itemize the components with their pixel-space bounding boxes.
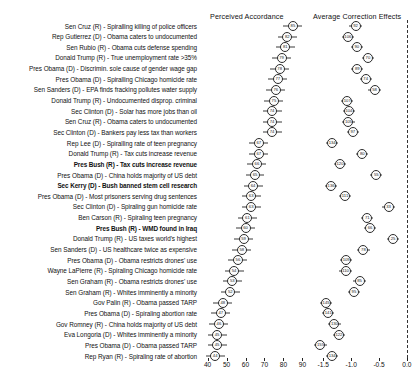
category-label: Sec Clinton (D) - Bankers pay less tax t…: [53, 128, 197, 137]
axis-tick-label: 60: [242, 361, 249, 368]
data-point-marker: 106: [343, 32, 353, 42]
category-label: Pres Obama (D) - Most prisoners serving …: [38, 192, 197, 201]
data-point-marker: 92: [351, 21, 361, 31]
x-axis-average-correction-effects: -1.5-1.0-0.50.0: [311, 358, 417, 382]
data-point-marker: 134: [327, 138, 337, 148]
category-label: Pres Obama (D) - Discrimin. sole cause o…: [29, 64, 197, 73]
category-label: Sen Rubio (R) - Obama cuts defense spend…: [66, 43, 197, 52]
category-label: Sen Cruz (R) - Spiralling killing of pol…: [65, 22, 197, 31]
axis-tick-label: 40: [204, 361, 211, 368]
category-label: Eva Longoria (D) - Whites imminently a m…: [64, 330, 197, 339]
data-point-marker: 63: [246, 202, 256, 212]
data-point-marker: 78: [358, 245, 368, 255]
data-point-marker: 74: [267, 127, 277, 137]
data-point-marker: 67: [254, 138, 264, 148]
data-point-marker: 90: [352, 42, 362, 52]
axis-tick-label: -1.0: [345, 361, 356, 368]
category-label: Sec Clinton (D) - Spiraling gun homicide…: [73, 202, 197, 211]
data-point-marker: 141: [323, 308, 333, 318]
data-point-marker: 107: [342, 96, 352, 106]
data-point-marker: 52: [225, 287, 235, 297]
category-label: Sen Sanders (D) - US healthcare twice as…: [50, 245, 197, 254]
data-point-marker: 79: [277, 53, 287, 63]
x-axis-perceived-accordance: 405060708090: [200, 358, 310, 382]
data-point-marker: 55: [371, 170, 381, 180]
data-point-marker: 56: [233, 255, 243, 265]
data-point-marker: 75: [269, 96, 279, 106]
category-label: Gov Palin (R) - Obama passed TARP: [93, 298, 197, 307]
data-point-marker: 59: [239, 234, 249, 244]
category-label: Sec Kerry (D) - Bush banned stem cell re…: [57, 181, 197, 190]
data-point-marker: 97: [348, 127, 358, 137]
axis-tick-label: 80: [280, 361, 287, 368]
category-label: Pres Bush (R) - Tax cuts increase revenu…: [74, 160, 197, 169]
category-label: Sen Graham (R) - Whites imminently a min…: [65, 288, 197, 297]
data-point-marker: 80: [357, 149, 367, 159]
data-point-marker: 47: [216, 308, 226, 318]
data-point-marker: 110: [341, 266, 351, 276]
category-label: Rep Ryan (R) - Spiraling rate of abortio…: [85, 352, 197, 361]
data-point-marker: 78: [275, 64, 285, 74]
category-label: Ben Carson (R) - Spiraling teen pregnanc…: [78, 213, 197, 222]
data-point-marker: 77: [273, 74, 283, 84]
category-label: Pres Obama (D) - Obama passed TARP: [85, 341, 197, 350]
data-point-marker: 66: [365, 223, 375, 233]
data-point-marker: 48: [218, 298, 228, 308]
data-point-marker: 109: [341, 255, 351, 265]
data-point-marker: 85: [288, 21, 298, 31]
data-point-marker: 63: [246, 191, 256, 201]
category-label: Sec Clinton (D) - Solar has more jobs th…: [71, 107, 197, 116]
axis-tick-label: 90: [299, 361, 306, 368]
data-point-marker: 74: [267, 106, 277, 116]
plot-panel-average-correction-effects: 9210690708974581071041059713480120551361…: [311, 20, 417, 358]
category-label: Pres Obama (D) - Spiralling Chicago homi…: [56, 75, 197, 84]
data-point-marker: 58: [237, 245, 247, 255]
data-point-marker: 46: [214, 319, 224, 329]
data-point-marker: 136: [326, 181, 336, 191]
category-label: Rep Lee (D) - Spiralling rate of teen pr…: [67, 139, 197, 148]
category-label: Sen Sanders (D) - EPA finds fracking pol…: [34, 85, 197, 94]
data-point-marker: 53: [227, 276, 237, 286]
data-point-marker: 120: [335, 159, 345, 169]
data-point-marker: 58: [370, 85, 380, 95]
data-point-marker: 130: [329, 319, 339, 329]
category-label: Pres Obama (D) - Obama restricts drones'…: [67, 256, 197, 265]
data-point-marker: 82: [282, 32, 292, 42]
axis-tick-label: -1.5: [318, 361, 329, 368]
data-point-marker: 54: [229, 266, 239, 276]
axis-tick-label: 70: [261, 361, 268, 368]
data-point-marker: 64: [248, 181, 258, 191]
data-point-marker: 81: [280, 42, 290, 52]
category-label: Pres Obama (D) - Spiraling abortion rate: [84, 309, 197, 318]
axis-tick-label: 50: [223, 361, 230, 368]
data-point-marker: 67: [254, 149, 264, 159]
axis-tick-label: -0.5: [373, 361, 384, 368]
category-label: Sen Graham (R) - Obama restricts drones'…: [67, 277, 197, 286]
category-label: Donald Trump (R) - Undocumented disprop.…: [51, 96, 197, 105]
category-label: Wayne LaPierre (R) - Spiraling Chicago h…: [47, 266, 197, 275]
data-point-marker: 95: [349, 287, 359, 297]
data-point-marker: 61: [242, 213, 252, 223]
category-label: Pres Bush (R) - WMD found in Iraq: [96, 224, 197, 233]
data-point-marker: 89: [352, 64, 362, 74]
data-point-marker: 122: [334, 330, 344, 340]
data-point-marker: 65: [250, 170, 260, 180]
data-point-marker: 85: [355, 276, 365, 286]
data-point-marker: 60: [241, 223, 251, 233]
data-point-marker: 155: [315, 340, 325, 350]
data-point-marker: 111: [340, 191, 350, 201]
data-point-marker: 71: [362, 213, 372, 223]
zero-reference-line: [407, 20, 408, 358]
category-label: Pres Obama (D) - China holds majority of…: [57, 171, 197, 180]
category-label: Donald Trump (R) - True unemployment rat…: [55, 53, 197, 62]
data-point-marker: 45: [212, 330, 222, 340]
data-point-marker: 33: [384, 202, 394, 212]
data-point-marker: 145: [321, 298, 331, 308]
category-label: Gov Romney (R) - China holds majority of…: [56, 320, 197, 329]
data-point-marker: 105: [343, 117, 353, 127]
category-label: Donald Trump (R) - US taxes world's high…: [73, 234, 197, 243]
plot-panel-perceived-accordance: 8582817978777675747474676766656463636160…: [200, 20, 310, 358]
category-label: Sen Cruz (R) - Obama caters to undocumen…: [65, 117, 197, 126]
data-point-marker: 76: [271, 85, 281, 95]
data-point-marker: 66: [252, 159, 262, 169]
